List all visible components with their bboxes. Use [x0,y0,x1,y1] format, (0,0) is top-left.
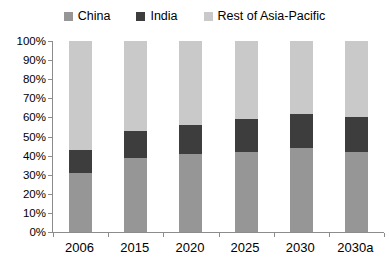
bar-slot-2030 [274,41,329,232]
plot-area [52,41,384,233]
y-axis-tick [48,175,52,176]
x-axis-label: 2020 [162,240,217,255]
legend-label: Rest of Asia-Pacific [218,9,326,23]
segment-china [290,148,313,232]
segment-china [179,154,202,232]
y-axis-label: 20% [0,188,46,200]
segment-rest-of-asia-pacific [290,41,313,114]
segment-rest-of-asia-pacific [69,41,92,150]
legend-swatch-icon [136,12,145,21]
stacked-bar-2006 [69,41,92,232]
y-axis-label: 30% [0,169,46,181]
y-axis-tick [48,137,52,138]
segment-china [345,152,368,232]
x-axis-label: 2015 [107,240,162,255]
y-axis-label: 80% [0,73,46,85]
bar-slot-2020 [163,41,218,232]
y-axis-label: 60% [0,111,46,123]
segment-china [235,152,258,232]
y-axis-tick [48,117,52,118]
y-axis-tick [48,232,52,233]
segment-india [124,131,147,158]
segment-india [290,114,313,148]
segment-india [235,119,258,151]
x-axis-tick [384,233,385,237]
y-axis-tick [48,98,52,99]
y-axis-tick [48,156,52,157]
segment-india [345,117,368,151]
y-axis-label: 70% [0,92,46,104]
segment-rest-of-asia-pacific [235,41,258,119]
x-axis-label: 2025 [218,240,273,255]
legend-swatch-icon [204,12,213,21]
y-axis-tick [48,60,52,61]
y-axis-label: 90% [0,54,46,66]
x-axis-label: 2030a [328,240,383,255]
stacked-bar-2015 [124,41,147,232]
segment-rest-of-asia-pacific [179,41,202,125]
legend-item-rest-of-asia-pacific: Rest of Asia-Pacific [204,9,326,23]
y-axis-tick [48,213,52,214]
y-axis-label: 40% [0,150,46,162]
stacked-bar-chart: ChinaIndiaRest of Asia-Pacific 0%10%20%3… [0,0,389,270]
x-axis-label: 2030 [273,240,328,255]
x-axis-tick [108,233,109,237]
x-axis-tick [329,233,330,237]
segment-rest-of-asia-pacific [124,41,147,131]
stacked-bar-2030 [290,41,313,232]
bar-slot-2015 [108,41,163,232]
legend-swatch-icon [64,12,73,21]
x-axis-tick [219,233,220,237]
y-axis-label: 100% [0,35,46,47]
y-axis-tick [48,79,52,80]
chart-legend: ChinaIndiaRest of Asia-Pacific [0,9,389,23]
x-axis-tick [163,233,164,237]
x-axis-tick [274,233,275,237]
segment-china [69,173,92,232]
segment-india [69,150,92,173]
stacked-bar-2020 [179,41,202,232]
x-axis-label: 2006 [52,240,107,255]
bar-slot-2025 [219,41,274,232]
y-axis-label: 50% [0,131,46,143]
bar-slot-2030a [329,41,384,232]
segment-india [179,125,202,154]
legend-item-india: India [136,9,177,23]
bar-slot-2006 [53,41,108,232]
segment-rest-of-asia-pacific [345,41,368,117]
y-axis-label: 10% [0,207,46,219]
y-axis-tick [48,41,52,42]
segment-china [124,158,147,232]
legend-label: India [150,9,177,23]
x-axis-tick [53,233,54,237]
stacked-bar-2030a [345,41,368,232]
legend-item-china: China [64,9,111,23]
legend-label: China [78,9,111,23]
stacked-bar-2025 [235,41,258,232]
y-axis-tick [48,194,52,195]
y-axis-label: 0% [0,226,46,238]
